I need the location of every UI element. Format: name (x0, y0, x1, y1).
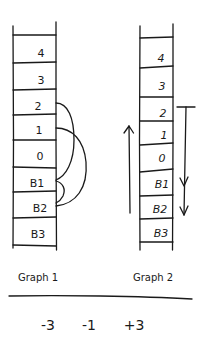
result-value-3: +3 (124, 317, 145, 333)
graph-1-arc-1-to-b2 (56, 128, 86, 206)
graph-2-floor-3: 3 (159, 80, 166, 93)
results-divider (9, 296, 192, 299)
graph-2-floor-0: 0 (159, 152, 166, 165)
graph-2-floor-b1: B1 (155, 178, 170, 191)
graph-2-left-rail (140, 26, 141, 250)
result-value-1: -3 (41, 317, 55, 333)
graph-1-floor-4: 4 (38, 47, 45, 60)
graph-2-down-arrow-icon (177, 107, 195, 215)
graph-2-caption: Graph 2 (133, 272, 173, 283)
graph-2-up-arrow-icon (124, 126, 134, 213)
graph-2-floor-1: 1 (161, 129, 168, 142)
graph-2-floor-b2: B2 (153, 203, 168, 216)
graph-1-floor-b3: B3 (31, 228, 46, 241)
graph-2-right-rail (173, 24, 174, 250)
graph-1-floor-3: 3 (38, 74, 45, 87)
graph-1-right-rail (56, 22, 57, 250)
graph-1-floor-b1: B1 (30, 177, 45, 190)
graph-1-floor-1: 1 (36, 124, 43, 137)
elevator-diagram: 4 3 2 1 0 B1 B2 B3 Graph 1 4 3 2 1 (0, 0, 202, 345)
graph-2-floor-b3: B3 (154, 227, 169, 240)
graph-1-floor-b2: B2 (33, 202, 48, 215)
graph-2-floor-2: 2 (160, 107, 167, 120)
graph-2-floor-4: 4 (158, 52, 165, 65)
graph-2: 4 3 2 1 0 B1 B2 B3 Graph 2 (124, 24, 195, 283)
graph-1: 4 3 2 1 0 B1 B2 B3 Graph 1 (13, 22, 86, 283)
graph-1-arc-2-to-b1 (56, 103, 74, 180)
graph-1-floor-0: 0 (37, 150, 44, 163)
result-value-2: -1 (82, 317, 96, 333)
graph-1-caption: Graph 1 (18, 272, 58, 283)
graph-1-arc-b1-to-b2 (56, 181, 64, 203)
graph-1-floor-2: 2 (35, 100, 42, 113)
graph-1-left-rail (13, 26, 14, 248)
